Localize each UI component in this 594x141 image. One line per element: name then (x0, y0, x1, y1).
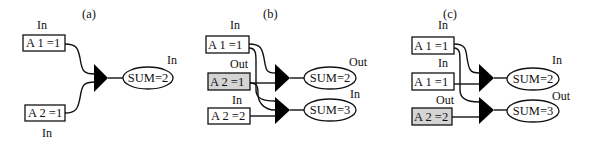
input-tag: In (438, 18, 448, 32)
input-tag: Out (436, 93, 455, 107)
sum-text: SUM=2 (128, 71, 168, 85)
input-box-text: A 2 =2 (211, 109, 245, 123)
input-box-text: A 2 =1 (210, 75, 244, 89)
sum-node-triangle (479, 97, 494, 124)
output-tag: Out (552, 89, 571, 103)
input-tag: Out (230, 57, 249, 71)
input-tag: In (230, 18, 240, 32)
input-box-text: A 1 =1 (414, 75, 448, 89)
wire (454, 44, 479, 73)
panel-label: (b) (263, 7, 278, 21)
output-tag: Out (349, 55, 368, 69)
sum-node-triangle (275, 64, 290, 92)
input-tag: In (42, 126, 52, 140)
panel-label: (a) (82, 7, 96, 21)
sum-text: SUM=2 (310, 71, 350, 85)
sum-text: SUM=2 (513, 72, 553, 86)
output-tag: In (350, 87, 360, 101)
sum-node-triangle (479, 64, 494, 92)
panel-b: (b) In A 1 =1 Out A 2 =1 In A 2 =2 SUM=2… (206, 7, 368, 124)
output-tag: In (167, 53, 177, 67)
input-box-text: A 1 =1 (414, 39, 448, 53)
input-box-text: A 2 =1 (28, 106, 62, 120)
input-tag: In (438, 56, 448, 70)
diagram-canvas: (a) In A 1 =1 A 2 =1 In SUM=2 In (b) In … (0, 0, 594, 141)
input-tag: In (37, 18, 47, 32)
input-box-text: A 1 =1 (208, 38, 242, 52)
wire (65, 82, 95, 113)
sum-text: SUM=3 (310, 103, 350, 117)
panel-c: (c) In A 1 =1 In A 1 =1 Out A 2 =2 SUM=2… (412, 7, 571, 125)
input-box-text: A 1 =1 (26, 36, 60, 50)
output-tag: In (552, 53, 562, 67)
sum-text: SUM=3 (513, 104, 553, 118)
wire (250, 83, 275, 110)
input-tag: In (232, 93, 242, 107)
input-box-text: A 2 =2 (414, 110, 448, 124)
panel-a: (a) In A 1 =1 A 2 =1 In SUM=2 In (23, 7, 177, 140)
wire (249, 48, 275, 101)
sum-node-triangle (275, 97, 290, 124)
sum-node-triangle (94, 64, 108, 92)
wire (65, 44, 95, 74)
